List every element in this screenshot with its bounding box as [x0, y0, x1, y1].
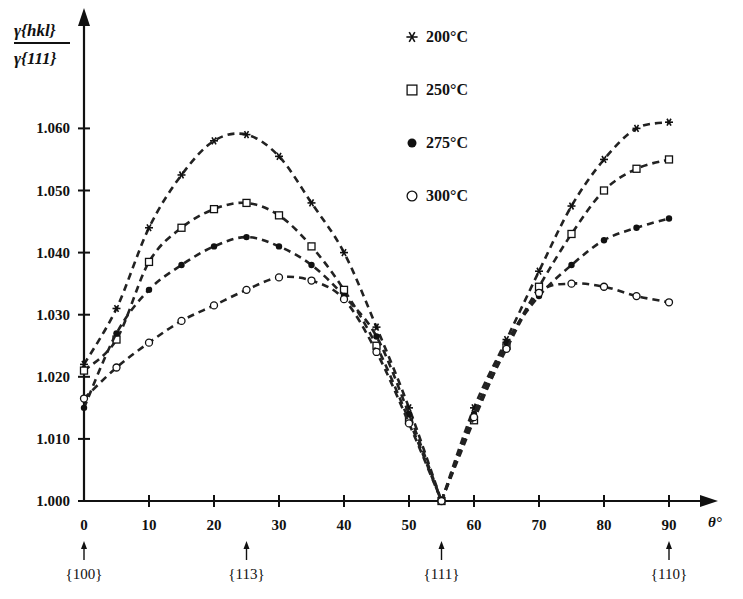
series-curve — [84, 134, 442, 501]
open-circle-marker-icon — [373, 348, 380, 355]
open-circle-marker-icon — [243, 286, 250, 293]
y-ticks: 1.0001.0101.0201.0301.0401.0501.060 — [36, 120, 90, 509]
open-circle-marker-icon — [536, 289, 543, 296]
open-circle-marker-icon — [146, 339, 153, 346]
plane-label: {100} — [66, 566, 103, 582]
square-marker-icon — [601, 187, 608, 194]
open-circle-marker-icon — [113, 364, 120, 371]
up-arrow-icon — [666, 541, 672, 549]
data-series — [80, 119, 673, 505]
filled-circle-marker-icon — [373, 333, 379, 339]
filled-circle-marker-icon — [276, 243, 282, 249]
legend-item: 300°C — [407, 187, 468, 204]
x-tick-label: 80 — [597, 517, 612, 533]
series-curve — [442, 283, 670, 501]
series-curve — [84, 203, 442, 501]
x-tick-label: 20 — [207, 517, 222, 533]
open-circle-marker-icon — [211, 302, 218, 309]
open-circle-marker-icon — [81, 395, 88, 402]
x-tick-label: 0 — [80, 517, 88, 533]
y-tick-label: 1.050 — [36, 183, 70, 199]
filled-circle-marker-icon — [408, 139, 417, 148]
series-curve — [442, 122, 670, 501]
x-axis-arrow-icon — [700, 495, 718, 507]
x-tick-label: 40 — [337, 517, 352, 533]
legend-item: 200°C — [406, 28, 468, 45]
x-tick-label: 30 — [272, 517, 287, 533]
legend-label: 300°C — [426, 187, 468, 204]
filled-circle-marker-icon — [601, 237, 607, 243]
filled-circle-marker-icon — [666, 215, 672, 221]
legend-item: 250°C — [407, 81, 468, 98]
square-marker-icon — [178, 224, 185, 231]
open-circle-marker-icon — [406, 420, 413, 427]
x-tick-label: 60 — [467, 517, 482, 533]
open-circle-marker-icon — [341, 296, 348, 303]
surface-energy-anisotropy-chart: γ{hkl} γ{111} θ° 1.0001.0101.0201.0301.0… — [0, 0, 743, 599]
filled-circle-marker-icon — [243, 234, 249, 240]
open-circle-marker-icon — [407, 191, 417, 201]
series-300c — [81, 274, 673, 505]
square-marker-icon — [276, 212, 283, 219]
y-tick-label: 1.040 — [36, 245, 70, 261]
filled-circle-marker-icon — [308, 262, 314, 268]
filled-circle-marker-icon — [146, 287, 152, 293]
y-tick-label: 1.020 — [36, 369, 70, 385]
filled-circle-marker-icon — [113, 330, 119, 336]
x-tick-label: 50 — [402, 517, 417, 533]
asterisk-marker-icon — [665, 119, 673, 126]
y-tick-label: 1.030 — [36, 307, 70, 323]
square-marker-icon — [407, 85, 417, 95]
y-tick-label: 1.060 — [36, 120, 70, 136]
legend-label: 200°C — [426, 28, 468, 45]
open-circle-marker-icon — [178, 317, 185, 324]
up-arrow-icon — [439, 541, 445, 549]
plane-label: {113} — [228, 566, 264, 582]
series-curve — [442, 159, 670, 501]
plane-label: {111} — [424, 566, 460, 582]
legend-label: 275°C — [426, 134, 468, 151]
up-arrow-icon — [81, 541, 87, 549]
legend: 200°C250°C275°C300°C — [406, 28, 468, 204]
square-marker-icon — [243, 199, 250, 206]
filled-circle-marker-icon — [568, 262, 574, 268]
plane-annotations: {100}{113}{111}{110} — [66, 541, 688, 582]
up-arrow-icon — [244, 541, 250, 549]
square-marker-icon — [666, 156, 673, 163]
plane-label: {110} — [651, 566, 687, 582]
open-circle-marker-icon — [601, 283, 608, 290]
filled-circle-marker-icon — [81, 405, 87, 411]
series-275c — [81, 215, 672, 504]
square-marker-icon — [146, 258, 153, 265]
x-tick-label: 10 — [142, 517, 157, 533]
y-axis-label: γ{hkl} γ{111} — [14, 21, 70, 68]
open-circle-marker-icon — [471, 414, 478, 421]
filled-circle-marker-icon — [178, 262, 184, 268]
series-250c — [81, 156, 673, 505]
square-marker-icon — [568, 230, 575, 237]
asterisk-marker-icon — [243, 131, 251, 138]
x-tick-label: 90 — [662, 517, 677, 533]
square-marker-icon — [308, 243, 315, 250]
y-tick-label: 1.010 — [36, 431, 70, 447]
open-circle-marker-icon — [568, 280, 575, 287]
square-marker-icon — [633, 165, 640, 172]
open-circle-marker-icon — [308, 277, 315, 284]
open-circle-marker-icon — [276, 274, 283, 281]
open-circle-marker-icon — [438, 498, 445, 505]
series-200c — [80, 119, 673, 505]
x-tick-label: 70 — [532, 517, 547, 533]
series-curve — [84, 277, 442, 501]
y-tick-label: 1.000 — [36, 493, 70, 509]
open-circle-marker-icon — [666, 299, 673, 306]
filled-circle-marker-icon — [211, 243, 217, 249]
open-circle-marker-icon — [633, 293, 640, 300]
square-marker-icon — [211, 206, 218, 213]
y-label-numerator: γ{hkl} — [14, 21, 56, 40]
y-label-denominator: γ{111} — [14, 49, 57, 68]
asterisk-marker-icon — [406, 32, 417, 42]
x-axis-label: θ° — [708, 514, 722, 530]
filled-circle-marker-icon — [633, 225, 639, 231]
square-marker-icon — [81, 367, 88, 374]
legend-label: 250°C — [426, 81, 468, 98]
